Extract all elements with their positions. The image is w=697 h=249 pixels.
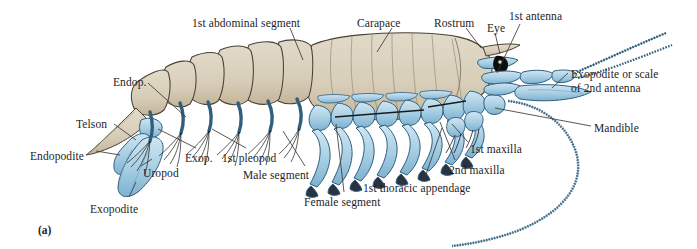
label-telson: Telson [76, 118, 107, 132]
figure-crayfish-anatomy: Telson Endop. Endopodite Uropod Exopodit… [0, 0, 697, 249]
label-mandible: Mandible [594, 122, 639, 136]
second-maxilla-shape [447, 117, 465, 137]
pleopod-4 [159, 103, 183, 167]
label-endop: Endop. [113, 76, 147, 90]
label-exop: Exop. [185, 152, 213, 166]
leader-endopodite [96, 151, 120, 155]
label-eye: Eye [487, 22, 505, 36]
label-first-pleopod: 1st pleopod [222, 152, 276, 166]
label-female-segment: Female segment [304, 196, 380, 210]
label-endopodite: Endopodite [30, 150, 84, 164]
label-exopodite: Exopodite [90, 203, 138, 217]
label-rostrum: Rostrum [434, 17, 474, 31]
first-maxilla-shape [465, 111, 483, 131]
label-uropod: Uropod [143, 167, 179, 181]
label-male-segment: Male segment [243, 169, 309, 183]
thoracic-appendage-4 [396, 100, 421, 185]
mandible-shape [484, 95, 505, 115]
label-first-maxilla: 1st maxilla [470, 143, 522, 157]
antennule-peduncle-1 [482, 71, 523, 84]
label-exopodite-scale: Exopodite or scale of 2nd antenna [571, 68, 691, 95]
figure-caption: (a) [38, 224, 51, 236]
label-first-thoracic: 1st thoracic appendage [363, 182, 471, 196]
abdomen-group [131, 40, 312, 115]
label-first-antenna: 1st antenna [509, 10, 562, 24]
label-second-maxilla: 2nd maxilla [449, 164, 505, 178]
leader-male-segment [283, 131, 305, 166]
rostrum [483, 44, 520, 56]
antennule-peduncle-2 [520, 70, 554, 83]
thoracic-appendage-8 [306, 105, 331, 197]
leader-first-pleopod [212, 129, 246, 148]
mandible-group [484, 95, 505, 115]
leader-exop [158, 129, 196, 148]
pleopod-0 [279, 99, 301, 162]
label-carapace: Carapace [357, 17, 401, 31]
label-first-abdominal: 1st abdominal segment [192, 17, 300, 31]
